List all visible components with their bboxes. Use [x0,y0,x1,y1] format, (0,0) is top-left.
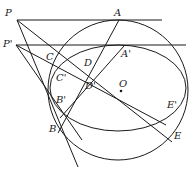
label-D: D [84,58,92,68]
label-C-prime: C' [56,73,66,83]
label-O: O [119,79,127,89]
label-B-prime: B' [56,95,66,105]
label-A-prime: A' [121,49,131,59]
big-circle [48,20,188,160]
label-A: A [114,8,121,18]
label-C: C [46,52,54,62]
label-D-prime: D' [85,81,96,91]
diagram-svg [0,0,194,176]
label-P: P [5,8,12,18]
center-point-O [120,90,123,93]
label-P-prime: P' [3,39,12,49]
line-P-B [17,20,78,167]
geometry-diagram: P P' A A' C C' D D' O B' B E' E [0,0,194,176]
line-A-B [58,20,119,133]
inner-ellipse [50,45,186,131]
label-E: E [174,131,181,141]
label-E-prime: E' [167,100,177,110]
label-B: B [49,124,56,134]
